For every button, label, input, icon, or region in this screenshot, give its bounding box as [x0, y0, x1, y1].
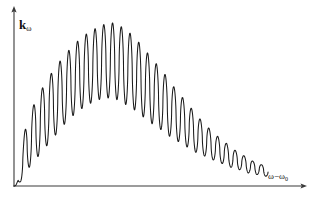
y-axis-label: kω: [19, 18, 32, 33]
y-axis-label-subscript: ω: [26, 24, 31, 33]
x-axis-label-main: ω−ω: [268, 171, 285, 181]
axes-group: [11, 6, 307, 189]
x-axis-label-subscript: 0: [285, 176, 288, 182]
data-curve-group: [14, 23, 268, 186]
plot-canvas: [0, 0, 312, 199]
x-axis-label: ω−ω0: [268, 172, 288, 182]
data-curve: [14, 23, 268, 186]
figure-root: kω ω−ω0: [0, 0, 312, 199]
